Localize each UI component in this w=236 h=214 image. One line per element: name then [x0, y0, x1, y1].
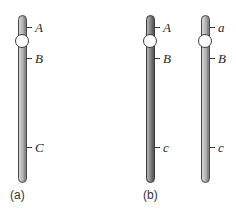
panel-b-label: (b) — [143, 189, 158, 202]
locus-tick — [210, 147, 215, 148]
locus-tick — [27, 27, 32, 28]
locus-tick — [155, 147, 160, 148]
locus-label: C — [35, 141, 44, 154]
locus-tick — [27, 58, 32, 59]
centromere-icon — [198, 34, 212, 48]
locus-tick — [155, 27, 160, 28]
panel-a-label: (a) — [10, 189, 25, 202]
locus-label: B — [35, 52, 43, 65]
locus-B: B — [146, 52, 184, 66]
chromosome-b-2: a B c — [201, 15, 236, 185]
locus-label: c — [218, 141, 224, 154]
locus-c: c — [201, 141, 236, 155]
locus-tick — [27, 147, 32, 148]
chromosome-a-1: A B C — [18, 15, 56, 185]
locus-A: A — [18, 21, 56, 35]
locus-B: B — [201, 52, 236, 66]
locus-tick — [210, 58, 215, 59]
centromere-icon — [15, 34, 29, 48]
chromosome-figure: A B C A B c a — [0, 0, 236, 214]
locus-tick — [210, 27, 215, 28]
chromosome-b-1: A B c — [146, 15, 184, 185]
locus-B: B — [18, 52, 56, 66]
locus-tick — [155, 58, 160, 59]
locus-a: a — [201, 21, 236, 35]
locus-label: B — [218, 52, 226, 65]
locus-A: A — [146, 21, 184, 35]
locus-c: c — [146, 141, 184, 155]
locus-label: a — [218, 21, 225, 34]
locus-label: B — [163, 52, 171, 65]
centromere-icon — [143, 34, 157, 48]
locus-C: C — [18, 141, 56, 155]
locus-label: c — [163, 141, 169, 154]
locus-label: A — [163, 21, 171, 34]
locus-label: A — [35, 21, 43, 34]
